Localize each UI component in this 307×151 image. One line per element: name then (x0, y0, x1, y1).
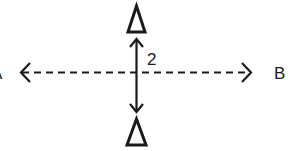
point-b-label: B (274, 64, 285, 83)
diagram-canvas: 2 B A (0, 0, 307, 151)
top-triangle-icon (128, 6, 145, 32)
point-a-label: A (0, 64, 3, 83)
distance-label: 2 (147, 50, 156, 69)
bottom-triangle-icon (127, 119, 146, 145)
vertical-double-arrow (130, 39, 143, 112)
